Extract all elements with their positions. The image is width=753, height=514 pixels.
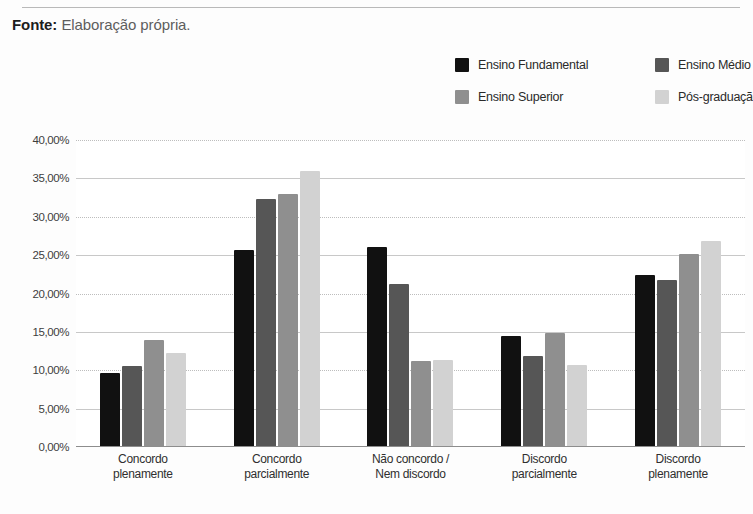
legend-swatch-icon — [655, 90, 669, 104]
legend-swatch-icon — [455, 90, 469, 104]
y-axis-tick-label: 10,00% — [5, 364, 69, 376]
bar — [278, 194, 298, 447]
top-divider-rule — [22, 7, 740, 8]
bar-group — [210, 140, 344, 447]
bar-group — [477, 140, 611, 447]
x-axis-label-line: parcialmente — [477, 467, 611, 482]
bar — [501, 336, 521, 447]
legend-item: Ensino Fundamental — [455, 58, 655, 72]
legend-item: Ensino Médio — [655, 58, 751, 72]
x-axis-category-label: Não concordo /Nem discordo — [344, 452, 478, 482]
bar — [657, 280, 677, 447]
y-axis-tick-label: 5,00% — [5, 403, 69, 415]
x-axis-label-line: plenamente — [76, 467, 210, 482]
x-axis-labels: ConcordoplenamenteConcordoparcialmenteNã… — [76, 452, 745, 482]
bar — [701, 241, 721, 447]
bar — [545, 333, 565, 447]
bar — [389, 284, 409, 447]
y-axis-tick-label: 15,00% — [5, 326, 69, 338]
x-axis-label-line: Não concordo / — [344, 452, 478, 467]
source-text: Elaboração própria. — [61, 16, 190, 33]
legend-label: Pós-graduação — [678, 90, 753, 104]
y-axis-tick-label: 30,00% — [5, 211, 69, 223]
x-axis-category-label: Concordoplenamente — [76, 452, 210, 482]
legend-item: Pós-graduação — [655, 90, 751, 104]
legend-swatch-icon — [655, 58, 669, 72]
bar-chart: 40,00%35,00%30,00%25,00%20,00%15,00%10,0… — [0, 118, 753, 514]
legend-label: Ensino Médio — [678, 58, 751, 72]
y-axis-tick-label: 35,00% — [5, 172, 69, 184]
legend-swatch-icon — [455, 58, 469, 72]
bar — [256, 199, 276, 447]
y-axis-tick-label: 40,00% — [5, 134, 69, 146]
bar-group — [611, 140, 745, 447]
bar — [411, 361, 431, 447]
x-axis-label-line: Concordo — [76, 452, 210, 467]
y-axis-tick-label: 20,00% — [5, 288, 69, 300]
bar — [635, 275, 655, 447]
bar — [234, 250, 254, 447]
bar — [144, 340, 164, 447]
legend-label: Ensino Superior — [478, 90, 563, 104]
x-axis-baseline — [76, 446, 745, 447]
x-axis-label-line: Discordo — [477, 452, 611, 467]
bar — [166, 353, 186, 447]
bar — [433, 360, 453, 447]
x-axis-category-label: Concordoparcialmente — [210, 452, 344, 482]
bar-group — [76, 140, 210, 447]
bar-groups — [76, 140, 745, 447]
legend-item: Ensino Superior — [455, 90, 655, 104]
x-axis-label-line: Nem discordo — [344, 467, 478, 482]
source-label: Fonte: — [12, 16, 57, 33]
legend-label: Ensino Fundamental — [478, 58, 588, 72]
y-axis-tick-label: 0,00% — [5, 441, 69, 453]
x-axis-label-line: parcialmente — [210, 467, 344, 482]
bar — [523, 356, 543, 447]
bar — [679, 254, 699, 447]
y-axis-tick-label: 25,00% — [5, 249, 69, 261]
x-axis-label-line: plenamente — [611, 467, 745, 482]
bar — [300, 171, 320, 447]
chart-legend: Ensino FundamentalEnsino MédioEnsino Sup… — [455, 49, 751, 113]
x-axis-label-line: Concordo — [210, 452, 344, 467]
bar — [567, 365, 587, 447]
bar — [100, 373, 120, 447]
bar-group — [344, 140, 478, 447]
x-axis-label-line: Discordo — [611, 452, 745, 467]
x-axis-category-label: Discordoparcialmente — [477, 452, 611, 482]
bar — [367, 247, 387, 447]
x-axis-category-label: Discordoplenamente — [611, 452, 745, 482]
bar — [122, 366, 142, 447]
figure-container: Fonte: Elaboração própria. Ensino Fundam… — [0, 0, 753, 514]
source-caption: Fonte: Elaboração própria. — [12, 16, 190, 33]
plot-area — [76, 140, 745, 447]
